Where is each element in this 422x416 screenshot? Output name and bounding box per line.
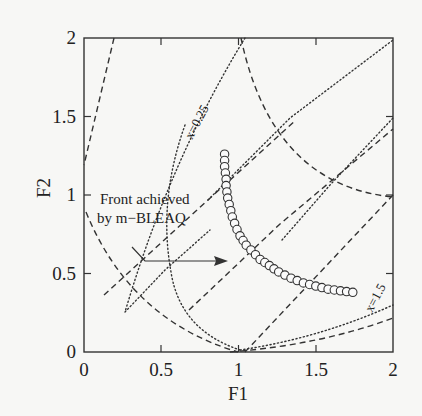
x-tick-label: 0 — [79, 359, 89, 380]
annotation-label: Front achieved — [100, 191, 190, 207]
y-tick-label: 1.5 — [52, 106, 76, 127]
curve-label-x15: x=1.5 — [361, 281, 388, 315]
x-tick-label: 1 — [234, 359, 244, 380]
annotation-label: by m−BLEAQ — [97, 210, 186, 226]
y-tick-label: 0 — [67, 341, 77, 362]
x-tick-label: 0.5 — [149, 359, 173, 380]
front-point — [349, 288, 357, 296]
y-axis-title: F2 — [33, 178, 54, 198]
pareto-front-chart: 0 0.5 1 1.5 2 0 0.5 1 1.5 2 F1 F2 Fr — [0, 0, 422, 416]
curve-label-x025: x=0.25 — [181, 102, 211, 141]
y-tick-label: 1 — [67, 184, 77, 205]
y-tick-label: 2 — [67, 27, 77, 48]
front-points — [220, 150, 357, 296]
annotation-arrow — [132, 247, 228, 266]
x-axis-title: F1 — [228, 383, 248, 404]
x-tick-label: 1.5 — [304, 359, 328, 380]
y-tick-label: 0.5 — [52, 263, 76, 284]
x-tick-label: 2 — [388, 359, 398, 380]
